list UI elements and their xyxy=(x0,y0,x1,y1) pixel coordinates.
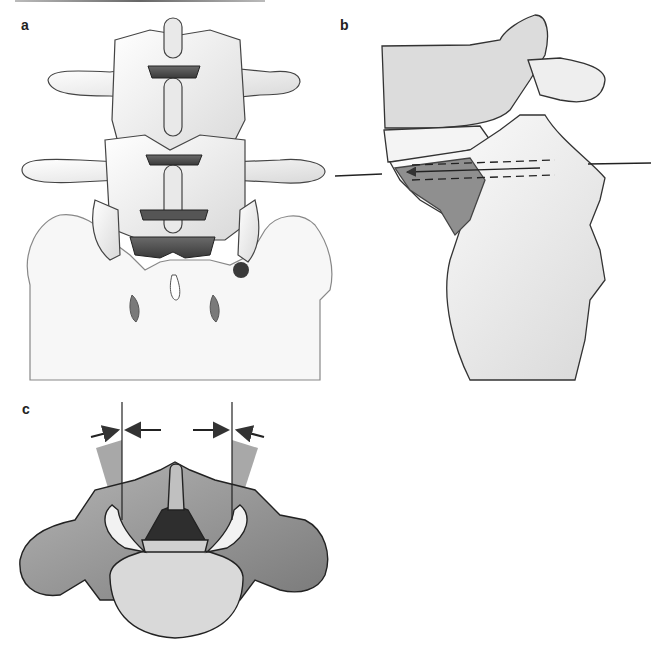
panel-c-illustration xyxy=(20,462,328,638)
convergence-arrows xyxy=(91,430,264,437)
panel-b-illustration xyxy=(382,15,605,380)
spinous-processes xyxy=(164,18,182,233)
figure-canvas xyxy=(0,0,670,658)
entry-point-marker xyxy=(233,262,249,278)
